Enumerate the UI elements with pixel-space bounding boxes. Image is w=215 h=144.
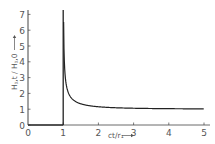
y-tick-label: 7 (19, 10, 25, 20)
y-tick-label: 6 (19, 26, 25, 36)
x-axis-label-text: ct/r₁ (108, 131, 124, 140)
series-decay-curve (64, 22, 204, 109)
x-tick-label: 0 (25, 128, 31, 138)
y-tick-label: 1 (19, 105, 25, 115)
y-tick-label: 2 (19, 89, 25, 99)
x-tick-label: 2 (96, 128, 102, 138)
y-axis-label-text: Hᵪ,t / Hᵪ,0 (10, 53, 19, 90)
y-tick-label: 4 (19, 57, 25, 67)
x-tick-label: 4 (166, 128, 172, 138)
x-tick-label: 5 (201, 128, 207, 138)
data-series (28, 10, 204, 125)
x-tick-label: 1 (60, 128, 66, 138)
y-ticks: 01234567 (19, 10, 30, 131)
y-tick-label: 5 (19, 42, 25, 52)
chart: 01234567 012345 Hᵪ,t / Hᵪ,0 ct/r₁ (0, 0, 215, 144)
y-tick-label: 3 (19, 73, 25, 83)
y-axis-label: Hᵪ,t / Hᵪ,0 (10, 35, 19, 90)
axes: 01234567 012345 (19, 10, 210, 138)
y-axis-arrowhead-icon (13, 35, 16, 38)
